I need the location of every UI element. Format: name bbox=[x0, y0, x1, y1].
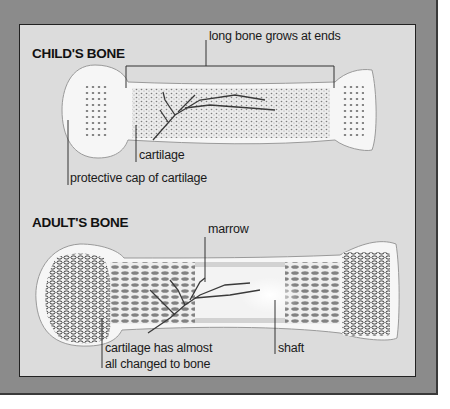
adult-bone-illustration bbox=[36, 242, 399, 347]
label-shaft: shaft bbox=[278, 340, 304, 356]
label-cartilage: cartilage bbox=[139, 147, 184, 163]
label-growth: long bone grows at ends bbox=[209, 28, 341, 44]
child-bone-title: CHILD'S BONE bbox=[32, 46, 125, 61]
bone-illustrations bbox=[0, 0, 450, 409]
label-marrow: marrow bbox=[208, 221, 248, 237]
label-cartilage-changed-line2: all changed to bone bbox=[105, 356, 210, 372]
child-bone-illustration bbox=[62, 65, 376, 158]
label-cartilage-changed-line1: cartilage has almost bbox=[105, 340, 212, 356]
adult-bone-title: ADULT'S BONE bbox=[32, 215, 128, 230]
label-protective-cap: protective cap of cartilage bbox=[70, 170, 207, 186]
